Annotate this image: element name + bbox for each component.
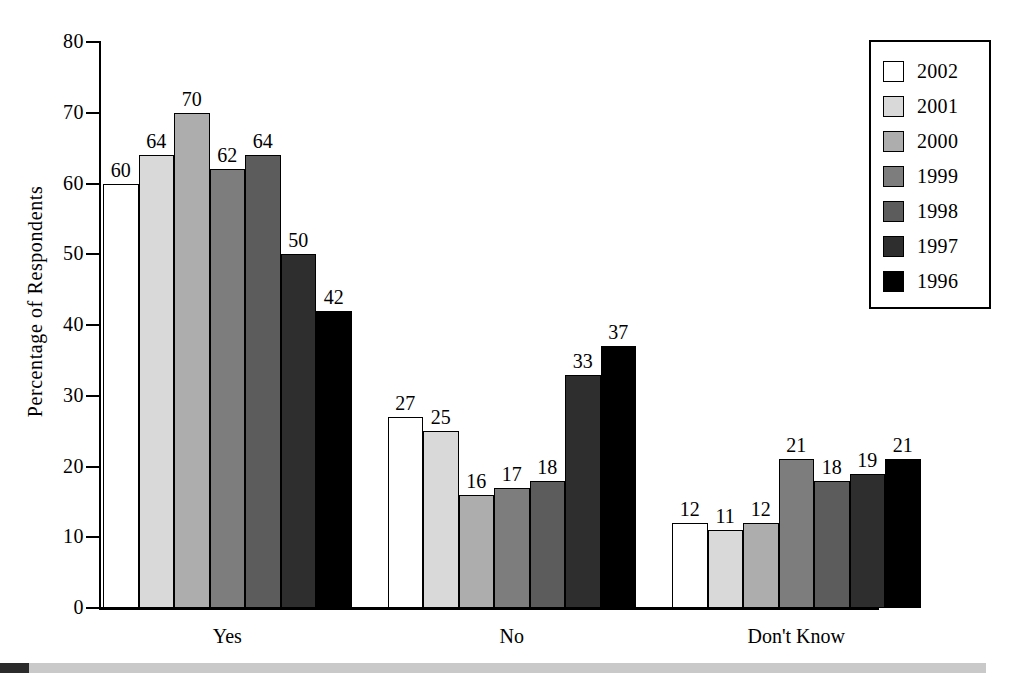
y-tick-mark	[86, 466, 100, 468]
bar-value-label: 33	[562, 351, 604, 371]
bar-value-label: 50	[278, 230, 320, 250]
legend-swatch	[883, 201, 904, 222]
bar	[139, 155, 175, 608]
y-tick-mark	[86, 112, 100, 114]
bar	[103, 184, 139, 609]
legend-item: 1998	[883, 196, 983, 226]
legend-swatch	[883, 271, 904, 292]
y-tick-mark	[86, 536, 100, 538]
bar	[388, 417, 424, 608]
bar	[708, 530, 744, 608]
bar	[494, 488, 530, 608]
y-axis-title: Percentage of Respondents	[24, 92, 47, 512]
bar-value-label: 25	[420, 407, 462, 427]
y-tick-mark	[86, 183, 100, 185]
bar	[850, 474, 886, 608]
bar-value-label: 42	[313, 287, 355, 307]
bar-chart-figure: 80706050403020100 Percentage of Responde…	[0, 0, 1009, 679]
bar	[316, 311, 352, 608]
y-tick-label: 0	[14, 597, 84, 617]
bar	[743, 523, 779, 608]
bar-value-label: 12	[740, 499, 782, 519]
legend-item: 2002	[883, 56, 983, 86]
legend-label: 2001	[917, 96, 958, 116]
bar	[672, 523, 708, 608]
legend-swatch	[883, 61, 904, 82]
legend-swatch	[883, 166, 904, 187]
legend-item: 2001	[883, 91, 983, 121]
bar-value-label: 18	[527, 457, 569, 477]
bar-value-label: 70	[171, 89, 213, 109]
bar	[423, 431, 459, 608]
y-tick-label: 10	[14, 526, 84, 546]
legend-item: 1996	[883, 266, 983, 296]
plot-area: 6064706264504227251617183337121112211819…	[100, 42, 878, 608]
bar-value-label: 21	[882, 435, 924, 455]
legend-label: 2002	[917, 61, 958, 81]
bar-value-label: 21	[776, 435, 818, 455]
legend-item: 1997	[883, 231, 983, 261]
y-tick-mark	[86, 324, 100, 326]
footer-gray-bar	[0, 663, 986, 673]
bar	[779, 459, 815, 608]
bar	[174, 113, 210, 608]
bar-value-label: 64	[242, 131, 284, 151]
legend-swatch	[883, 131, 904, 152]
y-tick-mark	[86, 253, 100, 255]
chart-legend: 2002200120001999199819971996	[869, 40, 991, 309]
legend-label: 1998	[917, 201, 958, 221]
footer-dark-block	[0, 663, 29, 673]
legend-item: 1999	[883, 161, 983, 191]
bar-value-label: 37	[598, 322, 640, 342]
y-tick-mark	[86, 607, 100, 609]
legend-label: 1999	[917, 166, 958, 186]
y-tick-label: 80	[14, 31, 84, 51]
legend-label: 1997	[917, 236, 958, 256]
bar-value-label: 64	[136, 131, 178, 151]
legend-swatch	[883, 96, 904, 117]
category-label: Don't Know	[612, 625, 981, 647]
y-tick-mark	[86, 41, 100, 43]
bar	[601, 346, 637, 608]
legend-swatch	[883, 236, 904, 257]
legend-label: 1996	[917, 271, 958, 291]
bar	[245, 155, 281, 608]
bar	[210, 169, 246, 608]
bar	[814, 481, 850, 608]
bar	[885, 459, 921, 608]
bar	[565, 375, 601, 608]
bar	[459, 495, 495, 608]
legend-item: 2000	[883, 126, 983, 156]
legend-label: 2000	[917, 131, 958, 151]
bar-value-label: 60	[100, 160, 142, 180]
y-tick-mark	[86, 395, 100, 397]
bar	[281, 254, 317, 608]
bar	[530, 481, 566, 608]
